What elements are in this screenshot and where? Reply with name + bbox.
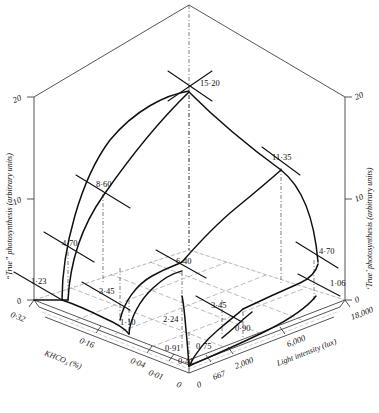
tick-light-18000: 18,000 — [349, 304, 375, 322]
data-point-label: 8·60 — [96, 179, 112, 189]
data-point-label: 3·45 — [211, 300, 227, 310]
data-point-label: 3·45 — [99, 286, 115, 296]
data-point-label: 0·75 — [196, 341, 212, 351]
tick-right-v-20: 20 — [353, 89, 365, 102]
tick-light-0: 0 — [195, 379, 203, 390]
data-point-label: 0·90 — [235, 323, 251, 333]
tick-khco3-032: 0·32 — [9, 309, 27, 324]
data-point-label: 1·23 — [31, 276, 47, 286]
tick-right-v-10: 10 — [353, 191, 365, 204]
tick-left-v-20: 20 — [11, 92, 23, 105]
data-point-label: 4·70 — [62, 238, 78, 248]
tick-khco3-016: 0·16 — [78, 335, 96, 350]
axis-labels: 0 10 20 “True” photosynthesis (arbitrary… — [5, 89, 375, 390]
axis-ticks — [27, 97, 352, 362]
response-curves — [34, 91, 318, 366]
data-point-label: 2·24 — [163, 314, 179, 324]
data-point-label: 1·10 — [120, 317, 136, 327]
data-point-label: 0·41 — [178, 356, 194, 366]
tick-left-v-0: 0 — [15, 295, 23, 306]
data-point-label: 0·91 — [165, 343, 181, 353]
data-point-label: 15·20 — [200, 78, 220, 88]
tick-right-v-0: 0 — [353, 294, 361, 305]
tick-light-667: 667 — [211, 368, 227, 382]
tick-khco3-001: 0·01 — [147, 367, 164, 382]
tick-khco3-004: 0·04 — [129, 355, 147, 370]
tick-khco3-0: 0 — [175, 379, 183, 390]
data-point-label: 6·40 — [176, 256, 192, 266]
tick-light-2000: 2,000 — [233, 354, 255, 370]
data-point-label: 11·35 — [272, 152, 292, 162]
data-point-label: 4·70 — [319, 246, 335, 256]
data-point-label: 1·06 — [330, 278, 346, 288]
axis-title-khco3: KHCO₃ (%) — [42, 348, 83, 371]
figure-canvas: .box {fill:none;stroke:#2a2a2a;stroke-wi… — [0, 0, 379, 413]
axis-title-right-vertical: ‘True’ photosynthesis (arbitrary units) — [365, 167, 374, 290]
photosynthesis-3d-figure: .box {fill:none;stroke:#2a2a2a;stroke-wi… — [0, 0, 379, 413]
axis-title-left-vertical: “True” photosynthesis (arbitrary units) — [5, 153, 14, 280]
